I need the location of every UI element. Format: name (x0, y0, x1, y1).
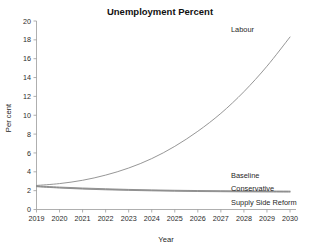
series-label-labour: Labour (231, 25, 255, 34)
x-tick-label: 2024 (144, 214, 160, 223)
x-tick-label: 2028 (236, 214, 252, 223)
y-tick-label: 10 (23, 111, 31, 120)
x-tick-label: 2026 (190, 214, 206, 223)
x-tick-label: 2025 (167, 214, 183, 223)
y-tick-label: 20 (23, 17, 31, 26)
series-label-baseline: Baseline (231, 171, 259, 180)
y-axis-title: Per cent (4, 103, 13, 132)
unemployment-line-chart: Unemployment Percent 02468101214161820 P… (0, 0, 320, 246)
x-axis-title: Year (158, 235, 174, 244)
series-label-supply-side-reform: Supply Side Reform (231, 198, 297, 207)
y-tick-label: 14 (23, 73, 31, 82)
y-tick-label: 16 (23, 54, 31, 63)
x-tick-label: 2022 (98, 214, 114, 223)
y-tick-label: 4 (27, 167, 31, 176)
y-tick-label: 2 (27, 186, 31, 195)
x-tick-label: 2023 (121, 214, 137, 223)
y-tick-label: 12 (23, 92, 31, 101)
chart-figure: Unemployment Percent 02468101214161820 P… (0, 0, 320, 246)
x-tick-label: 2020 (52, 214, 68, 223)
x-tick-label: 2029 (259, 214, 275, 223)
y-tick-label: 18 (23, 35, 31, 44)
chart-title: Unemployment Percent (107, 6, 214, 17)
x-tick-label: 2021 (75, 214, 91, 223)
y-tick-label: 0 (27, 205, 31, 214)
x-tick-label: 2027 (213, 214, 229, 223)
y-tick-label: 8 (27, 130, 31, 139)
series-label-conservative: Conservative (231, 184, 274, 193)
y-tick-label: 6 (27, 149, 31, 158)
x-tick-label: 2030 (282, 214, 298, 223)
x-tick-label: 2019 (29, 214, 45, 223)
